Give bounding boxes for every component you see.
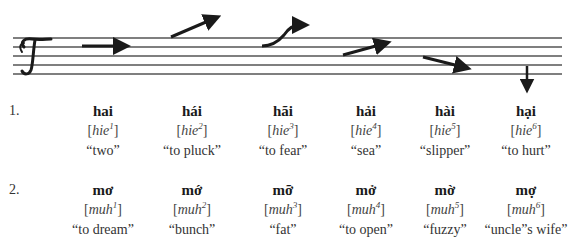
row-2-cell-4: mở [muh4] “to open”	[321, 180, 411, 240]
ipa-transcription: [hie2]	[147, 121, 237, 141]
gloss: “to dream”	[58, 220, 148, 240]
gloss: “to fear”	[238, 141, 328, 161]
row-2-cell-5: mờ [muh5] “fuzzy”	[400, 180, 490, 240]
gloss: “fat”	[238, 220, 328, 240]
ipa-transcription: [muh4]	[321, 200, 411, 220]
tone4-low-rising-arrow-icon	[343, 44, 383, 55]
ipa-transcription: [hie4]	[321, 121, 411, 141]
gloss: “sea”	[321, 141, 411, 161]
row-1-cell-1: hai [hie1] “two”	[58, 101, 148, 161]
word: hài	[400, 101, 490, 121]
row-1-cell-2: hái [hie2] “to pluck”	[147, 101, 237, 161]
gloss: “two”	[58, 141, 148, 161]
word: mờ	[400, 180, 490, 200]
word: hai	[58, 101, 148, 121]
tone-staff	[0, 0, 574, 100]
gloss: “bunch”	[147, 220, 237, 240]
gloss: “to hurt”	[481, 141, 571, 161]
word: mợ	[481, 180, 571, 200]
word: mở	[321, 180, 411, 200]
ipa-transcription: [hie1]	[58, 121, 148, 141]
ipa-transcription: [muh6]	[481, 200, 571, 220]
row-2-cell-1: mơ [muh1] “to dream”	[58, 180, 148, 240]
ipa-transcription: [hie6]	[481, 121, 571, 141]
row-1-cell-4: hải [hie4] “sea”	[321, 101, 411, 161]
row-2-label: 2.	[9, 182, 20, 198]
row-2-cell-2: mớ [muh2] “bunch”	[147, 180, 237, 240]
word: hại	[481, 101, 571, 121]
word: mỡ	[238, 180, 328, 200]
ipa-transcription: [muh5]	[400, 200, 490, 220]
tone3-broken-rising-arrow-icon	[262, 25, 301, 46]
gloss: “to open”	[321, 220, 411, 240]
gloss: “to pluck”	[147, 141, 237, 161]
word: mớ	[147, 180, 237, 200]
gloss: “uncle”s wife”	[481, 220, 571, 240]
row-1-cell-5: hài [hie5] “slipper”	[400, 101, 490, 161]
word: mơ	[58, 180, 148, 200]
tone2-rising-arrow-icon	[171, 19, 213, 37]
ipa-transcription: [muh2]	[147, 200, 237, 220]
ipa-transcription: [hie3]	[238, 121, 328, 141]
row-1-cell-3: hãi [hie3] “to fear”	[238, 101, 328, 161]
word: hải	[321, 101, 411, 121]
row-2-cell-6: mợ [muh6] “uncle”s wife”	[481, 180, 571, 240]
row-1-cell-6: hại [hie6] “to hurt”	[481, 101, 571, 161]
ipa-transcription: [muh1]	[58, 200, 148, 220]
ipa-transcription: [hie5]	[400, 121, 490, 141]
ipa-transcription: [muh3]	[238, 200, 328, 220]
gloss: “slipper”	[400, 141, 490, 161]
row-1-label: 1.	[9, 103, 20, 119]
row-2-cell-3: mỡ [muh3] “fat”	[238, 180, 328, 240]
staff-lines	[13, 38, 562, 74]
word: hái	[147, 101, 237, 121]
gloss: “fuzzy”	[400, 220, 490, 240]
word: hãi	[238, 101, 328, 121]
